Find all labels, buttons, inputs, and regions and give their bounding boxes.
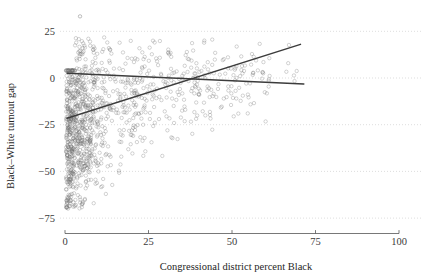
data-point — [215, 95, 218, 98]
data-point — [237, 86, 240, 89]
data-point — [169, 67, 172, 70]
data-point — [172, 121, 175, 124]
y-tick-label: 0 — [50, 73, 55, 84]
data-point — [118, 129, 121, 132]
data-point — [252, 55, 255, 58]
data-point — [230, 85, 233, 88]
data-point — [127, 104, 130, 107]
data-point — [94, 159, 97, 162]
data-point — [213, 58, 216, 61]
data-point — [181, 92, 184, 95]
data-point — [118, 67, 121, 70]
x-tick-label: 0 — [62, 236, 67, 247]
x-tick-label: 50 — [227, 236, 238, 247]
data-point — [189, 66, 192, 69]
data-point — [172, 104, 175, 107]
data-point — [76, 182, 79, 185]
data-point — [84, 67, 87, 70]
data-point — [249, 103, 252, 106]
scatter-plot-figure: 0255075100 250−25−50−75 Congressional di… — [0, 0, 427, 279]
data-point — [171, 136, 174, 139]
data-point — [111, 183, 114, 186]
data-point — [132, 116, 135, 119]
y-tick-label: 25 — [45, 26, 56, 37]
data-point — [204, 114, 207, 117]
data-point — [85, 145, 88, 148]
data-point — [169, 90, 172, 93]
data-point — [264, 120, 267, 123]
data-point — [100, 157, 103, 160]
data-point — [122, 128, 125, 131]
data-point — [165, 96, 168, 99]
data-point — [106, 115, 109, 118]
data-point — [90, 64, 93, 67]
data-point — [129, 143, 132, 146]
data-point — [142, 86, 145, 89]
gridlines-group — [60, 31, 423, 218]
data-point — [100, 141, 103, 144]
data-point — [146, 85, 149, 88]
data-point — [184, 53, 187, 56]
data-point — [179, 116, 182, 119]
data-point — [84, 187, 87, 190]
data-point — [178, 87, 181, 90]
data-point — [182, 98, 185, 101]
data-point — [132, 60, 135, 63]
data-point — [109, 77, 112, 80]
data-point — [163, 110, 166, 113]
data-point — [138, 47, 141, 50]
data-point — [80, 173, 83, 176]
data-point — [101, 137, 104, 140]
x-axis-title: Congressional district percent Black — [160, 261, 313, 272]
data-point — [191, 49, 194, 52]
data-point — [158, 56, 161, 59]
data-point — [99, 185, 102, 188]
data-point — [183, 64, 186, 67]
data-point — [194, 117, 197, 120]
data-point — [226, 56, 229, 59]
data-point — [65, 168, 68, 171]
data-point — [227, 85, 230, 88]
data-point — [239, 99, 242, 102]
data-points-group — [64, 15, 298, 211]
data-point — [104, 117, 107, 120]
data-point — [104, 192, 107, 195]
data-point — [116, 89, 119, 92]
y-tick-label: −75 — [39, 213, 55, 224]
data-point — [75, 41, 78, 44]
data-point — [110, 52, 113, 55]
data-point — [78, 45, 81, 48]
data-point — [170, 97, 173, 100]
data-point — [110, 119, 113, 122]
data-point — [287, 61, 290, 64]
data-point — [89, 178, 92, 181]
data-point — [82, 114, 85, 117]
data-point — [245, 82, 248, 85]
data-point — [232, 73, 235, 76]
data-point — [81, 78, 84, 81]
data-point — [193, 92, 196, 95]
data-point — [252, 101, 255, 104]
data-point — [96, 52, 99, 55]
data-point — [143, 136, 146, 139]
data-point — [213, 51, 216, 54]
data-point — [191, 132, 194, 135]
data-point — [144, 150, 147, 153]
data-point — [287, 43, 290, 46]
data-point — [118, 41, 121, 44]
data-point — [84, 58, 87, 61]
data-point — [92, 202, 95, 205]
data-point — [231, 96, 234, 99]
data-point — [81, 147, 84, 150]
data-point — [72, 192, 75, 195]
data-point — [121, 51, 124, 54]
data-point — [211, 128, 214, 131]
data-point — [106, 71, 109, 74]
data-point — [111, 90, 114, 93]
data-point — [123, 92, 126, 95]
data-point — [112, 67, 115, 70]
y-tick-labels-group: 250−25−50−75 — [39, 26, 55, 224]
data-point — [241, 94, 244, 97]
data-point — [124, 62, 127, 65]
data-point — [241, 72, 244, 75]
